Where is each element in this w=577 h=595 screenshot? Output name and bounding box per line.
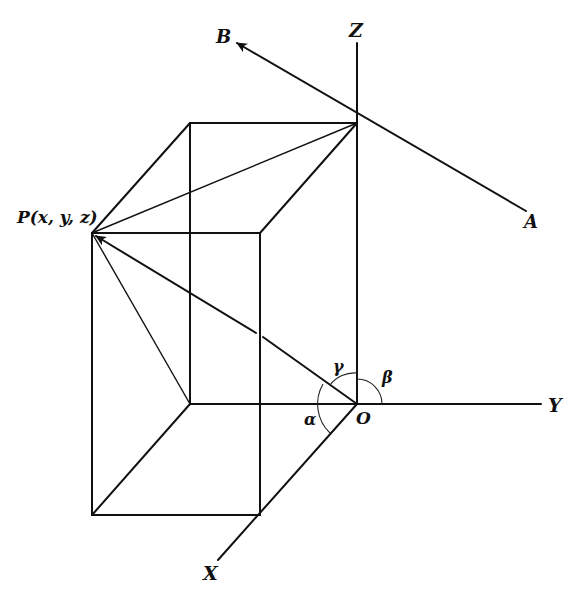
- axes: [190, 43, 541, 560]
- origin-label: O: [356, 408, 371, 428]
- point-a-label: A: [522, 211, 538, 232]
- position-vector-op: [96, 236, 357, 404]
- coordinate-box: [92, 123, 357, 515]
- beta-label: β: [381, 368, 393, 387]
- x-axis-label: X: [202, 562, 219, 584]
- line-ab: [237, 43, 526, 211]
- point-b-label: B: [215, 26, 231, 47]
- beta-arc: [357, 379, 382, 404]
- alpha-arc: [318, 384, 330, 433]
- y-axis-label: Y: [548, 394, 564, 416]
- alpha-label: α: [304, 410, 316, 429]
- gamma-label: γ: [333, 357, 345, 376]
- diagonal-p-to-z: [92, 123, 357, 233]
- z-axis-label: Z: [348, 19, 364, 41]
- point-p-label: P(x, y, z): [16, 207, 98, 227]
- diagonal-p-to-bottom: [92, 233, 190, 404]
- direction-angles-diagram: Z Y X O P(x, y, z) A B α β γ: [0, 0, 577, 595]
- x-axis: [218, 404, 357, 560]
